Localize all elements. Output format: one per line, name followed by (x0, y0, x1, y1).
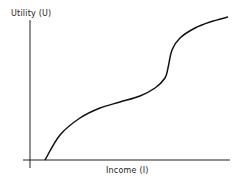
utility-curve (45, 17, 228, 160)
chart-plot (0, 0, 240, 185)
